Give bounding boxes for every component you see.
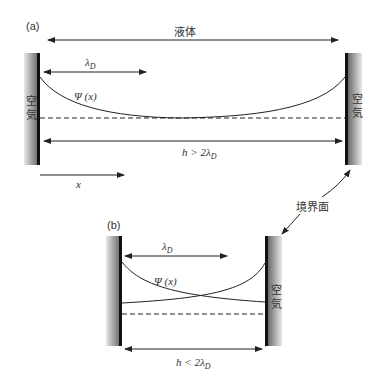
interface-annotation: 境界面 <box>282 170 350 234</box>
debye-length-label: λD <box>84 56 96 71</box>
potential-curve-right <box>122 263 265 303</box>
debye-length-label-b: λD <box>161 240 173 255</box>
panel-b-label: (b) <box>107 219 120 231</box>
left-wall-b <box>106 236 120 346</box>
panel-a: (a) 液体 空 気 空 気 λD Ψ (x) h > 2λD x <box>24 20 363 190</box>
interface-arrow-lower <box>282 214 300 234</box>
liquid-label: 液体 <box>174 25 196 39</box>
panel-b: (b) 空 気 λD Ψ (x) h < 2λD <box>106 219 282 371</box>
interface-label: 境界面 <box>296 200 329 214</box>
separation-label: h > 2λD <box>182 146 217 161</box>
potential-label-b: Ψ (x) <box>154 275 177 288</box>
left-interface-line-b <box>119 236 122 346</box>
potential-label: Ψ (x) <box>74 90 97 103</box>
panel-a-label: (a) <box>26 20 39 32</box>
right-interface-line-b <box>265 236 268 346</box>
separation-label-b: h < 2λD <box>176 356 211 371</box>
right-wall-label-top: 空 <box>352 92 363 106</box>
left-wall-label-top: 空 <box>26 94 37 108</box>
interface-arrow-upper <box>322 170 350 197</box>
right-wall-label-bottom-b: 気 <box>271 297 282 311</box>
right-interface-line <box>345 53 348 165</box>
right-wall-label-bottom: 気 <box>352 106 363 120</box>
electric-double-layer-diagram: (a) 液体 空 気 空 気 λD Ψ (x) h > 2λD x 境界面 <box>0 0 386 388</box>
left-interface-line <box>37 53 40 165</box>
x-axis-label: x <box>75 178 81 190</box>
left-wall-label-bottom: 気 <box>26 108 37 122</box>
right-wall-label-top-b: 空 <box>271 283 282 297</box>
